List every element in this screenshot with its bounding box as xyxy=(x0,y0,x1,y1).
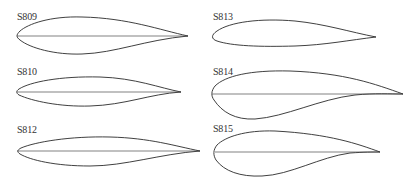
airfoil-s812-outline xyxy=(18,137,200,166)
airfoil-s813 xyxy=(213,20,377,46)
airfoil-s813-outline xyxy=(213,20,377,46)
airfoil-s814-outline xyxy=(212,71,403,119)
airfoil-profiles-figure: S809 S813 S810 S814 S812 S815 xyxy=(0,0,416,186)
airfoil-s815-outline xyxy=(214,131,380,176)
airfoil-s814 xyxy=(212,71,403,119)
airfoil-s815 xyxy=(214,131,380,176)
airfoil-s809 xyxy=(17,17,188,54)
airfoil-s810 xyxy=(17,77,181,106)
airfoil-s810-outline xyxy=(17,77,181,106)
airfoil-s812 xyxy=(17,137,200,166)
airfoil-s809-outline xyxy=(17,17,188,54)
airfoil-drawings xyxy=(0,0,416,186)
